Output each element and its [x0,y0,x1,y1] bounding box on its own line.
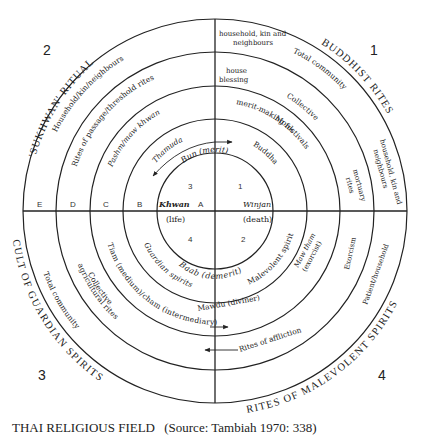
label-household-kin-top-b: neighbours [233,39,273,47]
quadrant-number-1: 1 [370,42,378,58]
label-house: house [226,67,247,75]
quadrant-number-2: 2 [43,42,51,58]
label-mawdu-diviner: Mawdu (diviner) [197,293,261,313]
cell-number-4: 4 [188,235,193,244]
thai-religious-field-diagram: 2 1 3 4 'SUKHWAN' RITUAL BUDDHIST RITES … [0,0,427,415]
label-tiam-cham: Tiam (medium)/cham (intermediary) [106,242,218,327]
label-agricultural-rites: agricultural rites [76,262,121,321]
cell-number-2: 2 [241,235,246,244]
ring-letter-a: A [198,200,204,209]
label-household-kin-top-a: household, kin and [219,30,287,38]
ring-letter-d: D [70,200,76,209]
quadrant-3-labels: Guardian spirits Tiam (medium)/cham (int… [41,241,228,331]
quadrant-number-4: 4 [378,367,386,383]
label-blessing: blessing [219,76,249,84]
ring-letter-b: B [137,200,142,209]
ring-letter-c: C [103,200,109,209]
figure-caption: THAI RELIGIOUS FIELD (Source: Tambiah 19… [12,420,317,436]
cell-number-1: 1 [238,182,243,191]
quadrant-number-3: 3 [38,367,46,383]
label-buddha: Buddha [252,140,281,167]
label-baab-demerit: Baab (demerit) [177,259,243,281]
label-collective-q1: Collective [285,91,321,123]
label-thamuda: Thamuda [150,135,184,165]
label-life: (life) [166,215,185,224]
mortuary-rites-group: mortuary rites [342,168,367,204]
cell-number-3: 3 [188,182,193,191]
caption-source: (Source: Tambiah 1970: 338) [164,420,316,435]
household-kin-side-group: household, kin and neighbours [369,138,403,208]
label-khwan: Khwan [158,199,190,209]
label-exorcism: Exorcism [343,236,358,270]
ring-letter-e: E [37,200,42,209]
label-bun-merit: Bun (merit) [178,145,229,165]
label-death: (death) [243,215,272,224]
caption-title: THAI RELIGIOUS FIELD [12,420,155,435]
label-winjan: Winjan [243,200,271,209]
